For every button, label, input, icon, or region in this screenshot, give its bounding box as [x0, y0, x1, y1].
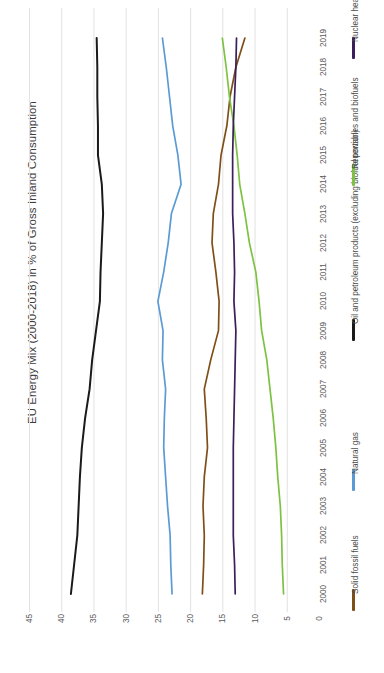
value-axis-tick: 5 — [282, 606, 291, 632]
series-line — [222, 38, 283, 594]
chart-legend: Solid fossil fuelsNatural gasOil and pet… — [344, 0, 384, 673]
chart-container: EU Energy Mix (2000-2018) in % of Gross … — [0, 0, 384, 673]
legend-label: Nuclear heat — [351, 0, 365, 48]
value-axis-tick: 35 — [89, 606, 98, 632]
value-axis-tick: 10 — [250, 606, 259, 632]
series-line — [233, 38, 237, 594]
plot-area — [29, 8, 319, 612]
series-line — [71, 38, 103, 594]
series-lines — [71, 38, 284, 594]
value-axis-tick: 15 — [218, 606, 227, 632]
value-axis-tick: 45 — [25, 606, 34, 632]
value-axis-tick: 40 — [57, 606, 66, 632]
series-line — [202, 38, 245, 594]
series-line — [158, 38, 181, 594]
year-axis-tick: 2019 — [319, 18, 331, 58]
value-axis-tick: 20 — [186, 606, 195, 632]
plot-svg — [29, 8, 319, 612]
value-axis: 051015202530354045 — [29, 612, 319, 642]
gridlines — [30, 8, 320, 612]
value-axis-tick: 30 — [121, 606, 130, 632]
value-axis-tick: 25 — [153, 606, 162, 632]
year-axis: 2000200120022003200420052006200720082009… — [305, 8, 345, 612]
